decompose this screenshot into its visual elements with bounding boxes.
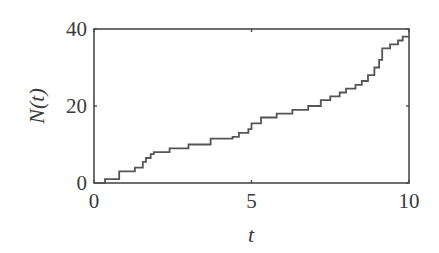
y-tick-label: 20 — [66, 94, 87, 118]
x-tick-label: 0 — [89, 189, 100, 213]
y-tick-label: 0 — [77, 171, 88, 195]
x-tick-label: 10 — [399, 189, 420, 213]
x-tick-label: 5 — [246, 189, 257, 213]
plot-frame — [94, 29, 409, 183]
y-tick-label: 40 — [66, 17, 87, 41]
step-chart: 051002040 t N(t) — [0, 0, 439, 253]
axis-ticks — [94, 29, 409, 183]
series-line-N — [94, 37, 409, 183]
y-axis-label: N(t) — [24, 88, 49, 124]
x-axis-label: t — [248, 222, 255, 247]
